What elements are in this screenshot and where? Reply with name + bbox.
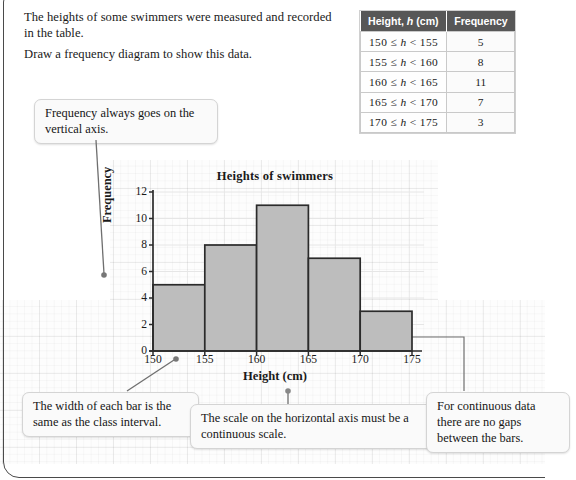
- table-cell-frequency: 3: [447, 112, 515, 132]
- table-cell-class-interval: 170 ≤ h < 175: [361, 112, 447, 132]
- table-header-frequency: Frequency: [447, 11, 515, 32]
- frequency-table: Height, h (cm) Frequency 150 ≤ h < 15551…: [360, 11, 515, 133]
- table-row: 165 ≤ h < 1707: [361, 92, 515, 112]
- table-row: 150 ≤ h < 1555: [361, 32, 515, 52]
- table-cell-class-interval: 165 ≤ h < 170: [361, 92, 447, 112]
- table-cell-class-interval: 160 ≤ h < 165: [361, 72, 447, 92]
- chart-bar: [205, 245, 257, 351]
- callout-bar-width: The width of each bar is the same as the…: [22, 392, 199, 437]
- chart-bar: [153, 285, 205, 351]
- intro-paragraph-2: Draw a frequency diagram to show this da…: [24, 47, 354, 63]
- chart-bar: [257, 205, 309, 351]
- table-cell-class-interval: 150 ≤ h < 155: [361, 32, 447, 52]
- table-cell-frequency: 11: [447, 72, 515, 92]
- table-cell-frequency: 8: [447, 52, 515, 72]
- callout-no-gaps: For continuous data there are no gaps be…: [426, 392, 570, 453]
- table-header-height: Height, h (cm): [361, 11, 447, 32]
- table-row: 155 ≤ h < 1608: [361, 52, 515, 72]
- chart-bar: [308, 258, 360, 351]
- intro-paragraph-1: The heights of some swimmers were measur…: [24, 10, 344, 41]
- callout-continuous-scale: The scale on the horizontal axis must be…: [190, 404, 434, 449]
- frequency-diagram: Heights of swimmers Frequency Height (cm…: [110, 165, 440, 393]
- header-height-suffix: (cm): [413, 15, 438, 27]
- table-row: 160 ≤ h < 16511: [361, 72, 515, 92]
- page-white-left: [0, 0, 110, 300]
- table-header-row: Height, h (cm) Frequency: [361, 11, 515, 32]
- chart-plot-area: [110, 165, 440, 393]
- table-cell-frequency: 5: [447, 32, 515, 52]
- callout-vertical-axis: Frequency always goes on the vertical ax…: [34, 99, 218, 144]
- table-row: 170 ≤ h < 1753: [361, 112, 515, 132]
- chart-bar: [360, 311, 412, 351]
- table-cell-frequency: 7: [447, 92, 515, 112]
- header-height-prefix: Height,: [368, 15, 407, 27]
- table-cell-class-interval: 155 ≤ h < 160: [361, 52, 447, 72]
